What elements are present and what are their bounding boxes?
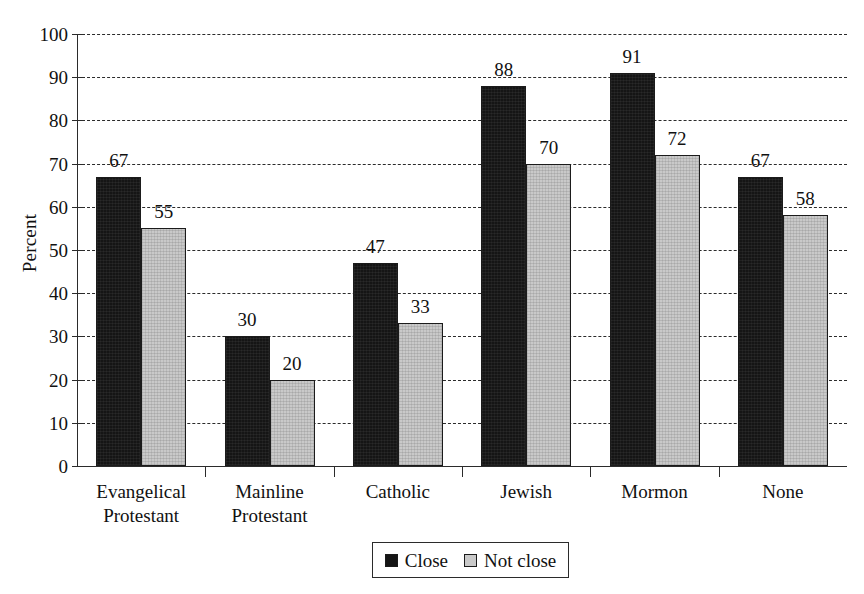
gridline [77,250,847,251]
x-axis-tick-label: None [719,480,847,504]
bar-not-close [398,323,443,466]
y-axis-line [77,34,78,467]
x-label-line-1: Mormon [621,481,688,502]
legend-item: Close [385,551,448,570]
y-axis-tick-label: 90 [6,68,68,87]
x-label-line-1: Catholic [366,481,430,502]
x-label-line-2: Protestant [77,504,205,528]
bar-value-label: 70 [516,138,581,157]
y-axis-tick-label: 20 [6,371,68,390]
x-axis-tick [462,467,463,477]
x-axis-tick-label: Jewish [462,480,590,504]
x-axis-tick-labels: EvangelicalProtestantMainlineProtestantC… [77,480,847,540]
bar-value-label: 88 [471,60,536,79]
gridline [77,380,847,381]
x-axis-tick-label: EvangelicalProtestant [77,480,205,528]
y-axis-tick-label: 0 [6,457,68,476]
gridline [77,120,847,121]
y-axis-tick-labels: 0102030405060708090100 [0,34,68,467]
chart-legend: CloseNot close [372,542,569,578]
gridline [77,77,847,78]
y-axis-tick-label: 100 [6,25,68,44]
y-axis-tick [72,423,85,424]
y-axis-tick-label: 70 [6,155,68,174]
legend-item: Not close [464,551,556,570]
bar-not-close [783,215,828,466]
x-axis-tick [205,467,206,477]
x-axis-tick [334,467,335,477]
y-axis-tick [72,336,85,337]
y-axis-tick-label: 40 [6,284,68,303]
x-axis-tick-label: Catholic [334,480,462,504]
y-axis-tick-label: 10 [6,414,68,433]
y-axis-tick [72,77,85,78]
gridline [77,336,847,337]
y-axis-tick-label: 60 [6,198,68,217]
gridline [77,293,847,294]
bar-value-label: 72 [645,129,710,148]
legend-label: Not close [484,551,556,570]
gridline [77,423,847,424]
y-axis-tick [72,207,85,208]
bar-not-close [655,155,700,466]
bar-value-label: 91 [600,47,665,66]
x-label-line-1: None [762,481,803,502]
bar-value-label: 20 [260,354,325,373]
y-axis-tick [72,34,85,35]
legend-swatch-notclose [464,554,477,567]
y-axis-tick-label: 50 [6,241,68,260]
bar-value-label: 55 [131,202,196,221]
x-label-line-1: Mainline [235,481,304,502]
x-label-line-1: Jewish [500,481,552,502]
bar-value-label: 67 [728,151,793,170]
legend-swatch-close [385,554,398,567]
plot-area: 675530204733887091726758 [77,34,847,466]
y-axis-tick-label: 80 [6,111,68,130]
x-axis-tick [590,467,591,477]
x-axis-tick [719,467,720,477]
bar-value-label: 58 [773,189,838,208]
bar-close [738,177,783,466]
bar-not-close [270,380,315,466]
y-axis-tick [72,250,85,251]
x-label-line-2: Protestant [205,504,333,528]
y-axis-tick [72,293,85,294]
bar-not-close [141,228,186,466]
x-axis-ticks [77,467,847,479]
gridline [77,34,847,35]
y-axis-tick [72,380,85,381]
bar-value-label: 47 [343,237,408,256]
y-axis-tick-label: 30 [6,327,68,346]
bar-chart: Percent 0102030405060708090100 675530204… [0,0,864,594]
bar-value-label: 33 [388,297,453,316]
bar-value-label: 67 [86,151,151,170]
x-label-line-1: Evangelical [96,481,186,502]
y-axis-tick [72,120,85,121]
y-axis-tick [72,164,85,165]
x-axis-tick-label: Mormon [590,480,718,504]
x-axis-tick-label: MainlineProtestant [205,480,333,528]
legend-label: Close [405,551,448,570]
bar-value-label: 30 [215,310,280,329]
bar-close [353,263,398,466]
bar-not-close [526,164,571,466]
